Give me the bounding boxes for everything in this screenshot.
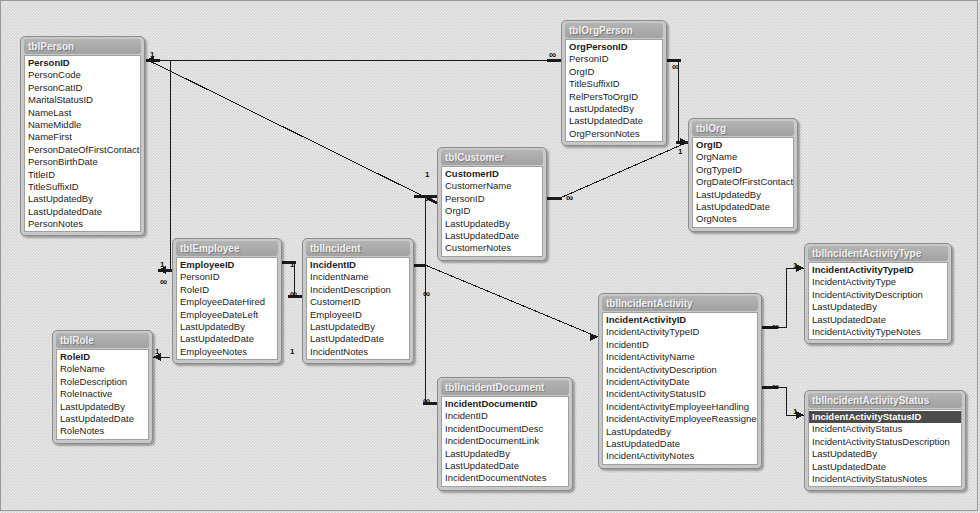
field-row[interactable]: IncidentDocumentNotes [442,472,568,484]
field-row[interactable]: IncidentActivityTypeID [603,326,757,338]
table-title[interactable]: tblIncidentDocument [441,380,569,395]
field-row[interactable]: LastUpdatedBy [809,448,961,460]
field-row[interactable]: IncidentActivityEmployeeHandling [603,401,757,413]
field-row[interactable]: EmployeeNotes [177,346,277,358]
field-row[interactable]: LastUpdatedDate [25,206,140,218]
field-row[interactable]: EmployeeID [307,309,409,321]
field-row[interactable]: IncidentDocumentLink [442,435,568,447]
table-tblRole[interactable]: tblRoleRoleIDRoleNameRoleDescriptionRole… [52,330,153,444]
field-row[interactable]: LastUpdatedDate [809,314,947,326]
table-title[interactable]: tblIncidentActivityType [808,246,948,261]
field-row[interactable]: NameFirst [25,131,140,143]
field-row[interactable]: IncidentDescription [307,284,409,296]
field-row[interactable]: IncidentActivityStatus [809,423,961,435]
field-row[interactable]: LastUpdatedBy [809,301,947,313]
field-row[interactable]: IncidentName [307,271,409,283]
table-tblPerson[interactable]: tblPersonPersonIDPersonCodePersonCatIDMa… [20,36,145,236]
field-row[interactable]: OrgID [442,205,542,217]
field-row[interactable]: IncidentActivityStatusNotes [809,473,961,485]
table-title[interactable]: tblEmployee [176,241,278,256]
field-row[interactable]: PersonCode [25,69,140,81]
field-row[interactable]: TitleSuffixID [25,181,140,193]
field-row-primary-key[interactable]: OrgID [693,139,793,151]
field-row[interactable]: IncidentActivityStatusDescription [809,436,961,448]
field-row[interactable]: LastUpdatedDate [307,333,409,345]
field-row[interactable]: RoleDescription [57,376,148,388]
table-title[interactable]: tblOrgPerson [565,23,663,38]
field-row-primary-key[interactable]: IncidentActivityStatusID [809,411,961,423]
field-row[interactable]: OrgDateOfFirstContact [693,176,793,188]
field-row[interactable]: LastUpdatedBy [57,401,148,413]
field-row-primary-key[interactable]: OrgPersonID [566,41,662,53]
table-tblOrg[interactable]: tblOrgOrgIDOrgNameOrgTypeIDOrgDateOfFirs… [688,118,798,232]
field-row-primary-key[interactable]: IncidentID [307,259,409,271]
field-row[interactable]: LastUpdatedDate [809,461,961,473]
field-row[interactable]: CustomerNotes [442,242,542,254]
diagram-canvas[interactable]: tblPersonPersonIDPersonCodePersonCatIDMa… [0,0,980,513]
field-row[interactable]: MaritalStatusID [25,94,140,106]
field-row[interactable]: LastUpdatedBy [177,321,277,333]
field-row[interactable]: PersonNotes [25,218,140,230]
field-row[interactable]: OrgNotes [693,213,793,225]
field-row[interactable]: LastUpdatedBy [307,321,409,333]
field-row[interactable]: LastUpdatedBy [693,189,793,201]
field-row[interactable]: LastUpdatedBy [566,103,662,115]
field-row-primary-key[interactable]: EmployeeID [177,259,277,271]
field-row-primary-key[interactable]: PersonID [25,57,140,69]
field-row[interactable]: IncidentActivityDate [603,376,757,388]
table-title[interactable]: tblCustomer [441,150,543,165]
field-row[interactable]: PersonID [442,193,542,205]
field-row[interactable]: NameMiddle [25,119,140,131]
field-row[interactable]: LastUpdatedBy [25,193,140,205]
field-row[interactable]: CustomerName [442,180,542,192]
field-row[interactable]: RoleName [57,363,148,375]
field-row[interactable]: RoleID [177,284,277,296]
field-row[interactable]: NameLast [25,107,140,119]
field-row[interactable]: IncidentActivityName [603,351,757,363]
field-row[interactable]: LastUpdatedBy [442,218,542,230]
table-tblCustomer[interactable]: tblCustomerCustomerIDCustomerNamePersonI… [437,147,547,261]
field-row[interactable]: LastUpdatedDate [442,230,542,242]
field-row[interactable]: PersonCatID [25,82,140,94]
table-tblIncidentDocument[interactable]: tblIncidentDocumentIncidentDocumentIDInc… [437,377,573,491]
field-row[interactable]: PersonBirthDate [25,156,140,168]
table-title[interactable]: tblOrg [692,121,794,136]
field-row[interactable]: IncidentActivityStatusID [603,388,757,400]
table-tblIncidentActivityStatus[interactable]: tblIncidentActivityStatusIncidentActivit… [804,390,966,491]
field-row[interactable]: PersonID [566,53,662,65]
field-row[interactable]: CustomerID [307,296,409,308]
table-title[interactable]: tblRole [56,333,149,348]
table-title[interactable]: tblIncident [306,241,410,256]
table-tblOrgPerson[interactable]: tblOrgPersonOrgPersonIDPersonIDOrgIDTitl… [561,20,667,146]
field-row[interactable]: IncidentActivityEmployeeReassignedTo [603,413,757,425]
field-row[interactable]: IncidentID [442,410,568,422]
field-row[interactable]: OrgID [566,66,662,78]
field-row[interactable]: IncidentActivityNotes [603,450,757,462]
field-row[interactable]: TitleSuffixID [566,78,662,90]
field-row[interactable]: EmployeeDateLeft [177,309,277,321]
table-tblIncidentActivity[interactable]: tblIncidentActivityIncidentActivityIDInc… [598,293,762,469]
field-row[interactable]: TitleID [25,169,140,181]
field-row[interactable]: IncidentActivityType [809,276,947,288]
field-row[interactable]: IncidentID [603,339,757,351]
table-title[interactable]: tblIncidentActivity [602,296,758,311]
field-row[interactable]: IncidentActivityTypeNotes [809,326,947,338]
field-row[interactable]: LastUpdatedDate [566,115,662,127]
field-row[interactable]: LastUpdatedDate [693,201,793,213]
table-tblIncidentActivityType[interactable]: tblIncidentActivityTypeIncidentActivityT… [804,243,952,344]
field-row[interactable]: OrgTypeID [693,164,793,176]
field-row[interactable]: IncidentNotes [307,346,409,358]
field-row[interactable]: LastUpdatedDate [177,333,277,345]
table-title[interactable]: tblIncidentActivityStatus [808,393,962,408]
field-row[interactable]: EmployeeDateHired [177,296,277,308]
field-row-primary-key[interactable]: CustomerID [442,168,542,180]
field-row[interactable]: OrgName [693,151,793,163]
table-tblIncident[interactable]: tblIncidentIncidentIDIncidentNameInciden… [302,238,414,364]
field-row-primary-key[interactable]: IncidentDocumentID [442,398,568,410]
field-row-primary-key[interactable]: RoleID [57,351,148,363]
field-row[interactable]: LastUpdatedDate [603,438,757,450]
field-row[interactable]: LastUpdatedDate [442,460,568,472]
field-row[interactable]: LastUpdatedBy [442,448,568,460]
field-row[interactable]: PersonDateOfFirstContact [25,144,140,156]
field-row[interactable]: PersonID [177,271,277,283]
